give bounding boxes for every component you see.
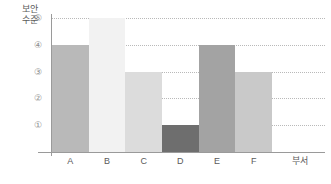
- security-level-bar-chart: 보안 수준 ⑤ ④ ③ ② ① A B C D E F 부서: [0, 0, 331, 184]
- x-axis-tick-label: E: [199, 156, 236, 167]
- x-axis-line: [38, 152, 325, 153]
- x-axis-title: 부서: [292, 156, 308, 167]
- bar-d: [162, 125, 199, 152]
- y-axis-tick-label: ③: [30, 67, 46, 77]
- bars-layer: [52, 18, 325, 152]
- bar-c: [125, 72, 162, 152]
- y-axis-tick-label: ①: [30, 120, 46, 130]
- bar-e: [199, 45, 236, 152]
- bar-f: [235, 72, 272, 152]
- y-axis-tick-label: ②: [30, 93, 46, 103]
- y-axis-tick-label: ⑤: [30, 13, 46, 23]
- bar-a: [52, 45, 89, 152]
- x-axis-tick-label: A: [52, 156, 89, 167]
- y-axis-line: [51, 14, 52, 156]
- x-axis-tick-label: D: [162, 156, 199, 167]
- x-axis-tick-label: B: [89, 156, 126, 167]
- x-axis-tick-label: F: [235, 156, 272, 167]
- bar-b: [89, 18, 126, 152]
- x-axis-tick-label: C: [125, 156, 162, 167]
- y-axis-tick-label: ④: [30, 40, 46, 50]
